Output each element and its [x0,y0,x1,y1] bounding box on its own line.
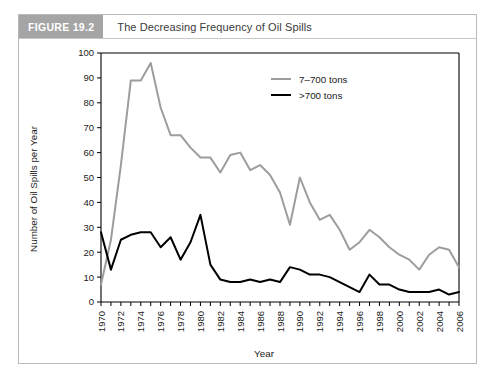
x-axis-tick-label: 2004 [434,311,445,332]
y-axis-tick-label: 100 [78,47,94,58]
legend-label-0: 7–700 tons [299,74,348,85]
x-axis-tick-label: 1978 [175,311,186,332]
x-axis-tick-label: 1980 [195,311,206,332]
series-line-gt-700-tons [101,215,459,295]
figure-number-badge: FIGURE 19.2 [19,15,103,38]
x-axis-tick-label: 1996 [354,311,365,332]
legend-label-1: >700 tons [299,90,342,101]
x-axis-title: Year [254,348,275,359]
x-axis-tick-label: 1974 [135,311,146,332]
x-axis-tick-label: 2002 [414,311,425,332]
x-axis-tick-label: 1994 [334,311,345,332]
y-axis-tick-label: 90 [83,72,94,83]
y-axis-tick-label: 40 [83,197,94,208]
figure-title: The Decreasing Frequency of Oil Spills [103,15,312,38]
x-axis-tick-label: 1986 [255,311,266,332]
data-series-group [101,63,459,295]
y-axis-tick-label: 10 [83,272,94,283]
x-axis-tick-label: 1982 [215,311,226,332]
y-axis-tick-label: 0 [89,296,94,307]
chart-plot-area: 0102030405060708090100 19701972197419761… [19,39,476,365]
oil-spills-line-chart: 0102030405060708090100 19701972197419761… [19,39,478,365]
chart-legend: 7–700 tons>700 tons [271,74,348,101]
x-axis-tick-label: 1970 [96,311,107,332]
x-axis-tick-label: 2006 [454,311,465,332]
y-axis-tick-label: 50 [83,172,94,183]
x-axis-tick-label: 1988 [275,311,286,332]
x-axis-tick-label: 2000 [394,311,405,332]
y-axis-tick-label: 30 [83,222,94,233]
figure-header: FIGURE 19.2 The Decreasing Frequency of … [19,15,476,39]
y-axis-title: Number of Oil Spills per Year [28,125,39,252]
y-axis-tick-label: 20 [83,247,94,258]
x-axis-tick-label: 1990 [294,311,305,332]
y-axis: 0102030405060708090100 [78,47,459,307]
x-axis-tick-label: 1992 [314,311,325,332]
series-line-7-700-tons [101,63,459,285]
x-axis-tick-label: 1972 [115,311,126,332]
y-axis-tick-label: 60 [83,147,94,158]
x-axis-tick-label: 1976 [155,311,166,332]
x-axis-tick-label: 1998 [374,311,385,332]
x-axis: 1970197219741976197819801982198419861988… [96,302,465,332]
x-axis-tick-label: 1984 [235,311,246,332]
figure-container: FIGURE 19.2 The Decreasing Frequency of … [18,14,477,364]
y-axis-tick-label: 70 [83,122,94,133]
y-axis-tick-label: 80 [83,97,94,108]
